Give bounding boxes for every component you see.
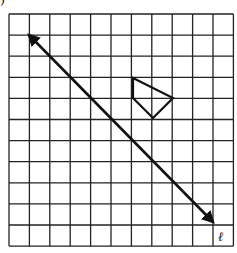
line-label: ℓ (218, 229, 223, 245)
line-l-arrow (29, 35, 213, 222)
grid-diagram (0, 0, 237, 253)
